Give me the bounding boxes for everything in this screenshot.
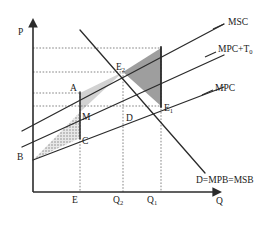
curve-label-demand: D=MPB=MSB: [196, 176, 254, 186]
externality-diagram-canvas: P Q MSC MPC+T0 MPC D=MPB=MSB E2 E1 A M C…: [0, 0, 279, 227]
axes: [33, 26, 214, 192]
axis-label-p: P: [18, 28, 23, 38]
point-label-d: D: [126, 114, 133, 124]
mpct-leader: [205, 52, 216, 57]
point-label-e1: E1: [164, 104, 173, 114]
axis-label-q: Q: [216, 197, 223, 207]
point-label-a: A: [70, 84, 77, 94]
curve-label-mpc-plus-tax-sub: 0: [249, 48, 252, 55]
point-label-e2-text: E: [116, 62, 122, 72]
x-tick-label-q2: Q2: [113, 196, 123, 206]
x-tick-label-q1-sub: 1: [154, 199, 157, 206]
point-label-e2-sub: 2: [122, 66, 125, 73]
x-tick-label-e: E: [72, 196, 78, 206]
curve-label-mpc: MPC: [215, 84, 235, 94]
msc-leader: [213, 24, 224, 29]
point-label-b: B: [17, 153, 23, 163]
curve-label-msc: MSC: [228, 18, 248, 28]
point-label-e1-text: E: [164, 103, 170, 113]
point-label-e2: E2: [116, 63, 125, 73]
curve-label-mpc-plus-tax-text: MPC+T: [218, 44, 249, 54]
x-tick-label-q2-sub: 2: [120, 199, 123, 206]
point-label-e1-sub: 1: [170, 107, 173, 114]
deadweight-hatched-region: [33, 112, 80, 160]
x-tick-label-q1: Q1: [147, 196, 157, 206]
point-label-m: M: [82, 113, 90, 123]
x-tick-label-q1-text: Q: [147, 195, 154, 205]
point-label-c: C: [82, 137, 88, 147]
curve-label-mpc-plus-tax: MPC+T0: [218, 45, 252, 55]
x-tick-label-q2-text: Q: [113, 195, 120, 205]
diagram-svg: [0, 0, 279, 227]
deadweight-dark-region: [123, 48, 161, 106]
